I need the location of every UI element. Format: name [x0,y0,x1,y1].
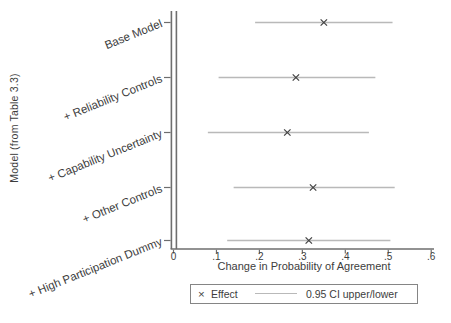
category-label: + High Participation Dummy [27,235,164,300]
x-axis-title: Change in Probability of Agreement [173,260,435,272]
category-label: + Reliability Controls [62,72,164,123]
y-axis-title: Model (from Table 3.3) [8,73,20,182]
category-label: + Capability Uncertainty [46,127,164,184]
category-label: Base Model [103,17,164,51]
coefficient-plot-figure: 0.1.2.3.4.5.6Base Model+ Reliability Con… [0,0,451,323]
ci-line-sample-icon [255,293,297,294]
category-label: + Other Controls [81,182,164,225]
effect-marker-icon: × [198,288,205,300]
legend-effect-label: Effect [211,288,238,300]
plot-area: 0.1.2.3.4.5.6Base Model+ Reliability Con… [0,0,451,323]
legend: × Effect 0.95 CI upper/lower [190,284,418,304]
legend-ci-label: 0.95 CI upper/lower [306,288,398,300]
